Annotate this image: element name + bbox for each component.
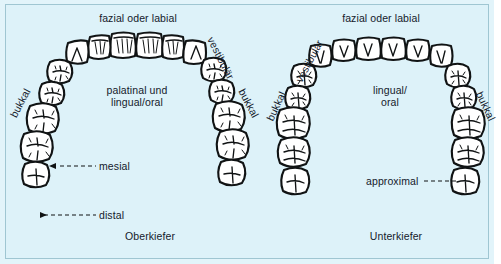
upper-tooth-premolar-second-left — [39, 82, 64, 106]
upper-tooth-molar-third-left — [22, 162, 49, 188]
upper-tooth-molar-second-right — [217, 129, 249, 160]
upper-tooth-canine-left — [66, 40, 88, 63]
upper-tooth-incisor-central-right — [136, 33, 163, 59]
upper-tooth-incisor-lateral-left — [88, 35, 110, 59]
upper-tooth-incisor-central-left — [110, 33, 136, 59]
lower-tooth-premolar-first-right — [445, 64, 470, 88]
upper-distal-label: distal — [99, 209, 124, 221]
lower-tooth-molar-third-left — [281, 168, 309, 195]
upper-fazial-labial-label: fazial oder labial — [73, 12, 203, 24]
lower-approximal-label: approximal — [366, 175, 418, 187]
lower-tooth-molar-second-right — [452, 137, 484, 167]
lower-tooth-incisor-central-left — [356, 38, 381, 61]
lower-lingual-label-line1: lingual/ — [345, 84, 435, 96]
upper-tooth-molar-second-left — [21, 131, 53, 162]
lower-tooth-molar-second-left — [278, 137, 310, 167]
upper-tooth-molar-first-right — [213, 101, 245, 132]
distal-arrow — [40, 212, 47, 218]
upper-mesial-label: mesial — [99, 160, 130, 172]
mesial-arrow — [49, 163, 56, 169]
upper-tooth-premolar-first-left — [47, 60, 72, 84]
upper-tooth-molar-first-left — [27, 103, 59, 134]
lower-lingual-label-line2: oral — [345, 96, 435, 108]
lower-tooth-incisor-lateral-left — [332, 40, 355, 62]
upper-tooth-incisor-lateral-right — [162, 35, 184, 59]
lower-tooth-incisor-lateral-right — [406, 40, 429, 62]
lower-tooth-incisor-central-right — [381, 38, 406, 61]
lower-tooth-canine-right — [430, 45, 452, 67]
upper-palatinal-label-line2: lingual/oral — [82, 96, 192, 108]
upper-jaw-caption: Oberkiefer — [95, 230, 205, 242]
upper-tooth-molar-third-right — [218, 160, 245, 186]
lower-fazial-labial-label: fazial oder labial — [316, 12, 446, 24]
lower-jaw-caption: Unterkiefer — [336, 230, 456, 242]
upper-palatinal-label-line1: palatinal und — [82, 84, 192, 96]
